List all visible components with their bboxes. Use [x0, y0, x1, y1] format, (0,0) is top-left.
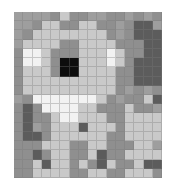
- mosaic-cell: [88, 132, 97, 141]
- mosaic-cell: [51, 58, 60, 67]
- mosaic-cell: [144, 40, 153, 49]
- mosaic-cell: [153, 141, 162, 150]
- mosaic-cell: [14, 113, 23, 122]
- mosaic-cell: [116, 104, 125, 113]
- mosaic-cell: [88, 77, 97, 86]
- mosaic-cell: [60, 95, 69, 104]
- mosaic-cell: [116, 58, 125, 67]
- mosaic-cell: [144, 132, 153, 141]
- mosaic-cell: [125, 123, 134, 132]
- mosaic-cell: [70, 113, 79, 122]
- mosaic-cell: [23, 132, 32, 141]
- mosaic-cell: [33, 150, 42, 159]
- mosaic-cell: [116, 95, 125, 104]
- mosaic-cell: [134, 58, 143, 67]
- mosaic-cell: [33, 67, 42, 76]
- mosaic-cell: [79, 67, 88, 76]
- mosaic-cell: [125, 132, 134, 141]
- mosaic-cell: [153, 86, 162, 95]
- mosaic-cell: [60, 169, 69, 178]
- mosaic-cell: [33, 86, 42, 95]
- mosaic-cell: [97, 40, 106, 49]
- mosaic-cell: [144, 169, 153, 178]
- mosaic-cell: [42, 160, 51, 169]
- mosaic-cell: [14, 160, 23, 169]
- mosaic-cell: [88, 150, 97, 159]
- mosaic-cell: [97, 86, 106, 95]
- mosaic-cell: [42, 40, 51, 49]
- mosaic-cell: [134, 95, 143, 104]
- mosaic-cell: [97, 123, 106, 132]
- mosaic-cell: [107, 150, 116, 159]
- mosaic-cell: [51, 123, 60, 132]
- mosaic-cell: [14, 86, 23, 95]
- mosaic-cell: [107, 67, 116, 76]
- mosaic-cell: [60, 77, 69, 86]
- mosaic-cell: [23, 58, 32, 67]
- mosaic-cell: [97, 132, 106, 141]
- mosaic-cell: [107, 77, 116, 86]
- mosaic-cell: [70, 12, 79, 21]
- mosaic-cell: [42, 150, 51, 159]
- mosaic-cell: [51, 141, 60, 150]
- mosaic-cell: [153, 150, 162, 159]
- mosaic-cell: [60, 123, 69, 132]
- mosaic-cell: [134, 86, 143, 95]
- mosaic-cell: [70, 141, 79, 150]
- mosaic-cell: [70, 58, 79, 67]
- mosaic-cell: [97, 150, 106, 159]
- mosaic-cell: [33, 169, 42, 178]
- mosaic-cell: [70, 160, 79, 169]
- mosaic-cell: [33, 12, 42, 21]
- mosaic-cell: [23, 21, 32, 30]
- mosaic-cell: [70, 123, 79, 132]
- mosaic-cell: [60, 58, 69, 67]
- mosaic-cell: [97, 49, 106, 58]
- mosaic-cell: [153, 169, 162, 178]
- mosaic-cell: [107, 123, 116, 132]
- mosaic-cell: [60, 86, 69, 95]
- mosaic-cell: [125, 160, 134, 169]
- mosaic-cell: [42, 12, 51, 21]
- mosaic-cell: [60, 30, 69, 39]
- mosaic-cell: [79, 58, 88, 67]
- mosaic-cell: [97, 21, 106, 30]
- mosaic-cell: [14, 169, 23, 178]
- mosaic-cell: [60, 21, 69, 30]
- mosaic-cell: [153, 12, 162, 21]
- mosaic-cell: [134, 77, 143, 86]
- mosaic-cell: [88, 58, 97, 67]
- mosaic-cell: [42, 21, 51, 30]
- mosaic-cell: [144, 150, 153, 159]
- mosaic-cell: [88, 123, 97, 132]
- mosaic-cell: [88, 12, 97, 21]
- mosaic-cell: [33, 30, 42, 39]
- mosaic-cell: [42, 49, 51, 58]
- mosaic-cell: [42, 67, 51, 76]
- mosaic-cell: [42, 30, 51, 39]
- mosaic-cell: [107, 49, 116, 58]
- mosaic-cell: [79, 77, 88, 86]
- mosaic-cell: [51, 169, 60, 178]
- mosaic-cell: [23, 49, 32, 58]
- mosaic-cell: [33, 49, 42, 58]
- mosaic-cell: [42, 141, 51, 150]
- mosaic-cell: [33, 21, 42, 30]
- mosaic-cell: [153, 49, 162, 58]
- mosaic-cell: [33, 58, 42, 67]
- mosaic-cell: [23, 77, 32, 86]
- mosaic-cell: [144, 86, 153, 95]
- mosaic-cell: [33, 160, 42, 169]
- mosaic-cell: [33, 77, 42, 86]
- mosaic-cell: [107, 169, 116, 178]
- mosaic-cell: [88, 30, 97, 39]
- image-canvas: [0, 0, 174, 192]
- mosaic-cell: [60, 113, 69, 122]
- mosaic-cell: [14, 67, 23, 76]
- mosaic-cell: [33, 132, 42, 141]
- mosaic-cell: [88, 141, 97, 150]
- mosaic-cell: [70, 150, 79, 159]
- mosaic-cell: [14, 12, 23, 21]
- mosaic-cell: [33, 40, 42, 49]
- mosaic-cell: [97, 12, 106, 21]
